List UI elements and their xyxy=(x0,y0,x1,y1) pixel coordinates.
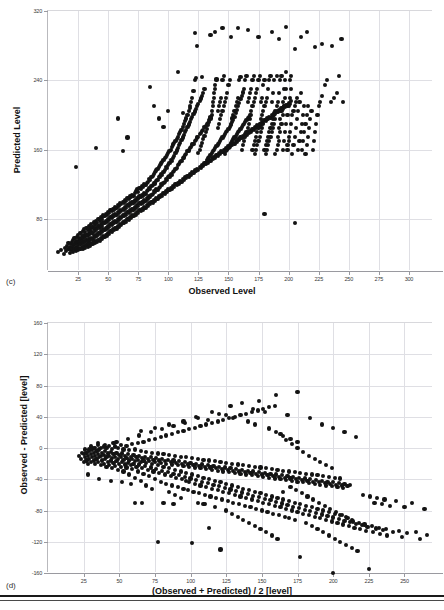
scatter-point xyxy=(382,497,386,501)
scatter-point xyxy=(303,152,307,156)
scatter-point xyxy=(273,504,277,508)
scatter-point xyxy=(171,502,175,506)
scatter-point xyxy=(190,541,194,545)
scatter-point xyxy=(220,109,224,113)
scatter-point xyxy=(136,469,140,473)
scatter-point xyxy=(190,96,194,100)
scatter-point xyxy=(198,483,202,487)
scatter-point xyxy=(119,443,123,447)
scatter-point xyxy=(278,78,282,82)
scatter-point xyxy=(254,148,258,152)
scatter-point xyxy=(200,480,204,484)
scatter-point xyxy=(410,501,414,505)
scatter-point xyxy=(344,543,348,547)
scatter-point xyxy=(361,493,365,497)
scatter-point xyxy=(267,139,271,143)
scatter-point xyxy=(318,483,322,487)
scatter-point xyxy=(205,127,209,131)
scatter-point xyxy=(259,130,263,134)
y-axis-tick-label: -160 xyxy=(16,570,42,576)
scatter-point xyxy=(136,441,140,445)
x-axis-tick-label: 175 xyxy=(254,276,263,282)
scatter-point xyxy=(291,109,295,113)
gridline-vertical xyxy=(168,11,169,270)
scatter-point xyxy=(267,78,271,82)
scatter-point xyxy=(153,477,157,481)
panel-c: Predicted Level 255075100125150175200225… xyxy=(0,0,444,300)
scatter-point xyxy=(425,533,429,537)
scatter-point xyxy=(341,100,345,104)
scatter-point xyxy=(103,443,107,447)
scatter-point xyxy=(332,96,336,100)
scatter-point xyxy=(249,113,253,117)
scatter-point xyxy=(203,502,207,506)
scatter-point xyxy=(244,74,248,78)
scatter-point xyxy=(160,427,164,431)
x-axis-tick-label: 225 xyxy=(314,276,323,282)
scatter-point xyxy=(265,148,269,152)
scatter-point xyxy=(258,527,262,531)
scatter-point xyxy=(258,135,262,139)
scatter-point xyxy=(380,502,384,506)
scatter-point xyxy=(203,493,207,497)
scatter-point xyxy=(193,482,197,486)
scatter-point xyxy=(294,126,298,130)
scatter-point xyxy=(295,390,299,394)
scatter-point xyxy=(310,505,314,509)
scatter-point xyxy=(191,490,195,494)
scatter-point xyxy=(321,508,325,512)
scatter-point xyxy=(212,91,216,95)
scatter-point xyxy=(364,529,368,533)
scatter-point xyxy=(211,100,215,104)
scatter-point xyxy=(325,78,329,82)
scatter-point xyxy=(173,493,177,497)
scatter-point xyxy=(293,501,297,505)
scatter-point xyxy=(200,75,204,79)
y-axis-tick-label: -80 xyxy=(16,508,42,514)
y-axis-tick-label: 40 xyxy=(16,414,42,420)
y-axis-tick-label: 160 xyxy=(16,320,42,326)
gridline-vertical xyxy=(198,11,199,270)
gridline-horizontal xyxy=(48,479,432,480)
scatter-point xyxy=(159,480,163,484)
scatter-point xyxy=(283,130,287,134)
scatter-point xyxy=(302,130,306,134)
scatter-point xyxy=(218,100,222,104)
scatter-point xyxy=(265,96,269,100)
scatter-point xyxy=(288,78,292,82)
scatter-point xyxy=(375,496,379,500)
scatter-point xyxy=(189,100,193,104)
scatter-point xyxy=(242,139,246,143)
scatter-point xyxy=(161,501,165,505)
scatter-point xyxy=(210,487,214,491)
scatter-point xyxy=(228,78,232,82)
scatter-point xyxy=(285,148,289,152)
scatter-point xyxy=(217,484,221,488)
scatter-point xyxy=(246,492,250,496)
x-axis-tick-label: 250 xyxy=(400,578,409,584)
scatter-point xyxy=(201,476,205,480)
scatter-point xyxy=(275,496,279,500)
scatter-point xyxy=(291,143,295,147)
scatter-point xyxy=(167,422,171,426)
scatter-point xyxy=(320,422,324,426)
scatter-point xyxy=(265,510,269,514)
scatter-point xyxy=(126,437,130,441)
scatter-point xyxy=(220,26,224,30)
scatter-point xyxy=(304,472,308,476)
scatter-point xyxy=(204,422,208,426)
scatter-point xyxy=(313,130,317,134)
x-axis-tick-label: 125 xyxy=(194,276,203,282)
gridline-horizontal xyxy=(48,511,432,512)
scatter-point xyxy=(283,96,287,100)
x-axis-tick-label: 200 xyxy=(329,578,338,584)
scatter-point xyxy=(306,104,310,108)
panel-d-plot-area: 255075100125150175200225250-160-120-80-4… xyxy=(47,322,432,572)
scatter-point xyxy=(301,450,305,454)
scatter-point xyxy=(258,74,262,78)
scatter-point xyxy=(264,530,268,534)
scatter-point xyxy=(321,530,325,534)
scatter-point xyxy=(221,418,225,422)
y-axis-tick-label: 160 xyxy=(16,147,42,153)
scatter-point xyxy=(318,100,322,104)
